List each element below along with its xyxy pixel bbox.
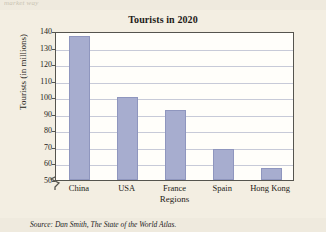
source-note-author: Dan Smith, xyxy=(55,220,89,229)
y-tick-label: 80 xyxy=(32,127,52,135)
source-note-label: Source: xyxy=(30,220,53,229)
chart-title: Tourists in 2020 xyxy=(0,14,326,25)
y-tick-label: 120 xyxy=(32,61,52,69)
gridline xyxy=(56,99,293,100)
bar-hong-kong[interactable] xyxy=(261,168,282,180)
y-tick-label: 60 xyxy=(32,160,52,168)
x-tick-label-china: China xyxy=(55,183,103,193)
source-note-title: The State of the World Atlas. xyxy=(91,220,177,229)
y-tick-label: 130 xyxy=(32,45,52,53)
bar-china[interactable] xyxy=(69,36,90,180)
bar-france[interactable] xyxy=(165,110,186,180)
x-tick-label-hong-kong: Hong Kong xyxy=(246,183,294,193)
y-axis-title: Tourists (in millions) xyxy=(18,17,28,127)
y-tick-label: 110 xyxy=(32,78,52,86)
source-note: Source: Dan Smith, The State of the Worl… xyxy=(30,220,176,229)
x-tick-label-usa: USA xyxy=(103,183,151,193)
x-axis-title: Regions xyxy=(55,194,294,204)
y-tick-label: 70 xyxy=(32,144,52,152)
chart-figure: Tourists in 2020 Tourists (in millions) … xyxy=(0,10,326,218)
bar-spain[interactable] xyxy=(213,149,234,180)
scan-artifact-top-text: market way xyxy=(4,0,38,7)
gridline xyxy=(56,50,293,51)
bar-usa[interactable] xyxy=(117,97,138,180)
gridline xyxy=(56,66,293,67)
y-axis-tick-labels: 5060708090100110120130140 xyxy=(30,32,52,181)
gridline xyxy=(56,83,293,84)
y-tick-label: 140 xyxy=(32,28,52,36)
x-tick-label-spain: Spain xyxy=(198,183,246,193)
y-tick-label: 90 xyxy=(32,111,52,119)
x-tick-label-france: France xyxy=(151,183,199,193)
plot-area xyxy=(55,32,294,181)
y-tick-label: 100 xyxy=(32,94,52,102)
